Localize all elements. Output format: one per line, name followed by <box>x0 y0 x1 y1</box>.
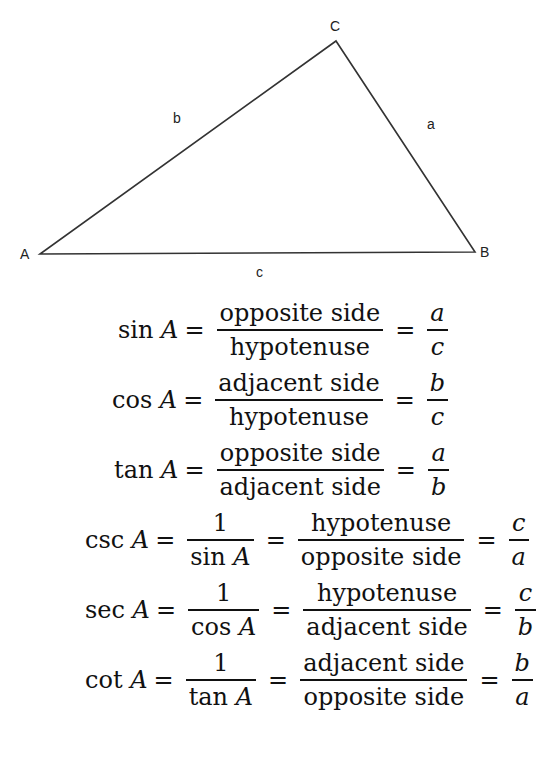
equals-sign: = <box>154 666 174 694</box>
numerator: 1 <box>213 577 234 609</box>
denominator: a <box>509 541 529 573</box>
function-name: sec A <box>85 596 150 624</box>
vertex-label-c: C <box>330 18 340 34</box>
equals-sign: = <box>476 526 496 554</box>
denominator: cos A <box>188 611 259 643</box>
fraction: 1tan A <box>186 647 256 713</box>
numerator: c <box>509 507 528 539</box>
function-name: cot A <box>85 666 148 694</box>
fraction: 1cos A <box>188 577 259 643</box>
denominator: opposite side <box>300 681 467 713</box>
denominator: c <box>428 331 447 363</box>
fraction: hypotenuseadjacent side <box>303 577 470 643</box>
denominator: adjacent side <box>217 471 384 503</box>
fraction: ac <box>427 297 447 363</box>
fraction: bc <box>427 367 448 433</box>
numerator: a <box>427 297 447 329</box>
numerator: hypotenuse <box>308 507 454 539</box>
numerator: b <box>512 647 533 679</box>
equals-sign: = <box>183 386 203 414</box>
numerator: a <box>429 437 449 469</box>
equals-sign: = <box>479 666 499 694</box>
equals-sign: = <box>184 316 204 344</box>
side-label-b: b <box>173 110 181 126</box>
denominator: c <box>428 401 447 433</box>
numerator: 1 <box>210 507 231 539</box>
fraction: ab <box>428 437 449 503</box>
numerator: opposite side <box>217 437 384 469</box>
function-name: csc A <box>85 526 149 554</box>
equation-row: csc A=1sin A=hypotenuseopposite side=ca <box>85 505 535 575</box>
fraction: adjacent sideopposite side <box>300 647 467 713</box>
numerator: 1 <box>210 647 231 679</box>
denominator: opposite side <box>298 541 465 573</box>
equation-row: sin A=opposite sidehypotenuse=ac <box>118 295 454 365</box>
denominator: hypotenuse <box>226 401 372 433</box>
numerator: c <box>516 577 535 609</box>
equation-row: sec A=1cos A=hypotenuseadjacent side=cb <box>85 575 540 645</box>
function-name: cos A <box>112 386 177 414</box>
fraction: 1sin A <box>187 507 253 573</box>
denominator: a <box>512 681 532 713</box>
triangle-diagram <box>0 0 492 290</box>
fraction: opposite sideadjacent side <box>217 437 384 503</box>
equals-sign: = <box>396 456 416 484</box>
vertex-label-a: A <box>20 246 29 262</box>
equals-sign: = <box>268 666 288 694</box>
equals-sign: = <box>266 526 286 554</box>
fraction: adjacent sidehypotenuse <box>215 367 382 433</box>
vertex-label-b: B <box>480 244 489 260</box>
equals-sign: = <box>483 596 503 624</box>
numerator: opposite side <box>217 297 384 329</box>
denominator: adjacent side <box>303 611 470 643</box>
denominator: tan A <box>186 681 256 713</box>
fraction: ba <box>512 647 533 713</box>
equals-sign: = <box>395 316 415 344</box>
fraction: cb <box>515 577 536 643</box>
fraction: ca <box>509 507 529 573</box>
denominator: b <box>428 471 449 503</box>
denominator: sin A <box>187 541 253 573</box>
equals-sign: = <box>184 456 204 484</box>
equals-sign: = <box>395 386 415 414</box>
fraction: hypotenuseopposite side <box>298 507 465 573</box>
equals-sign: = <box>271 596 291 624</box>
fraction: opposite sidehypotenuse <box>217 297 384 363</box>
equation-row: cos A=adjacent sidehypotenuse=bc <box>112 365 454 435</box>
triangle-shape <box>40 41 475 254</box>
equation-row: tan A=opposite sideadjacent side=ab <box>114 435 455 505</box>
equals-sign: = <box>155 526 175 554</box>
numerator: adjacent side <box>215 367 382 399</box>
function-name: sin A <box>118 316 178 344</box>
denominator: hypotenuse <box>227 331 373 363</box>
side-label-c: c <box>256 264 263 280</box>
numerator: b <box>427 367 448 399</box>
equation-row: cot A=1tan A=adjacent sideopposite side=… <box>85 645 539 715</box>
denominator: b <box>515 611 536 643</box>
side-label-a: a <box>427 116 435 132</box>
equals-sign: = <box>156 596 176 624</box>
numerator: hypotenuse <box>314 577 460 609</box>
numerator: adjacent side <box>300 647 467 679</box>
function-name: tan A <box>114 456 178 484</box>
